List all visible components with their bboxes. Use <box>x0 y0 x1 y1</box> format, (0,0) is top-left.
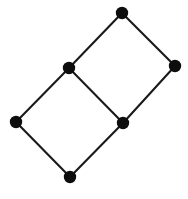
edge-upper-left-to-center <box>69 68 123 123</box>
graph-figure-canvas <box>0 0 188 199</box>
node-right <box>169 60 181 72</box>
node-bottom <box>64 171 76 183</box>
node-top <box>116 7 128 19</box>
edge-layer <box>16 13 175 177</box>
edge-top-to-upper-left <box>69 13 122 68</box>
node-upper-left <box>63 62 75 74</box>
node-left <box>10 116 22 128</box>
node-center <box>117 117 129 129</box>
graph-svg <box>0 0 188 199</box>
edge-bottom-to-center <box>70 123 123 177</box>
edge-right-to-center <box>123 66 175 123</box>
edge-top-to-right <box>122 13 175 66</box>
edge-upper-left-to-left <box>16 68 69 122</box>
edge-left-to-bottom <box>16 122 70 177</box>
